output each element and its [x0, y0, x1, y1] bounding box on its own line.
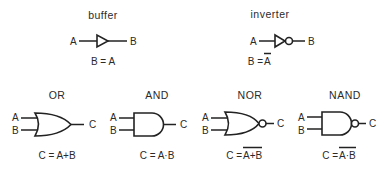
nor-gate: NOR A B C C = A+B [202, 89, 284, 161]
inverter-gate: inverter A B B = A [248, 8, 315, 67]
nor-symbol-icon [225, 112, 259, 135]
logic-gates-diagram: buffer A B B = A inverter A B B = A OR A… [0, 0, 381, 171]
buffer-symbol-icon [97, 35, 108, 47]
nor-input-a: A [202, 112, 209, 123]
and-output-c: C [180, 119, 187, 130]
nand-equation-prefix: C = [322, 150, 338, 161]
nor-equation-prefix: C = [226, 150, 242, 161]
nor-title: NOR [238, 89, 263, 101]
nand-input-a: A [298, 112, 305, 123]
or-symbol-icon [35, 113, 71, 136]
and-title: AND [145, 89, 169, 101]
nand-bubble-icon [352, 120, 359, 127]
nor-input-b: B [202, 125, 209, 136]
and-input-b: B [110, 125, 117, 136]
or-input-b: B [12, 125, 19, 136]
nor-bubble-icon [259, 120, 266, 127]
inverter-title: inverter [250, 8, 289, 20]
nand-input-b: B [298, 125, 305, 136]
buffer-input-a: A [70, 36, 77, 47]
or-output-c: C [89, 119, 96, 130]
inverter-symbol-icon [275, 35, 285, 47]
inverter-equation-negated: A [264, 56, 271, 67]
nor-equation-negated: A+B [243, 150, 263, 161]
and-input-a: A [110, 112, 117, 123]
nor-output-c: C [277, 118, 284, 129]
inverter-equation-prefix: B = [248, 56, 263, 67]
or-equation: C = A+B [38, 150, 76, 161]
buffer-output-b: B [130, 36, 137, 47]
and-gate: AND A B C C = A·B [110, 89, 187, 161]
inverter-output-b: B [308, 36, 315, 47]
nand-output-c: C [369, 118, 376, 129]
nand-title: NAND [329, 89, 361, 101]
inverter-bubble-icon [286, 38, 293, 45]
or-title: OR [49, 89, 66, 101]
or-gate: OR A B C C = A+B [12, 89, 96, 161]
buffer-gate: buffer A B B = A [70, 9, 137, 67]
inverter-input-a: A [250, 36, 257, 47]
and-symbol-icon [134, 113, 164, 136]
buffer-title: buffer [88, 9, 118, 21]
nand-equation-negated: A·B [339, 150, 356, 161]
nand-gate: NAND A B C C = A·B [298, 89, 376, 161]
or-input-a: A [12, 112, 19, 123]
and-equation: C = A·B [140, 150, 175, 161]
nand-symbol-icon [322, 112, 352, 135]
buffer-equation: B = A [91, 56, 116, 67]
